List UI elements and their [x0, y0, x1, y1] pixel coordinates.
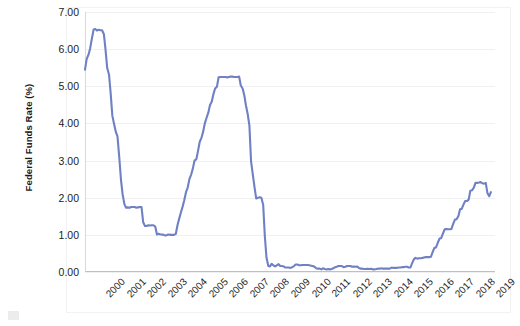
x-tick-label: 2008 — [268, 276, 292, 300]
x-tick-label: 2011 — [329, 276, 352, 299]
y-tick-label: 1.00 — [59, 229, 79, 241]
y-tick-label: 6.00 — [59, 43, 79, 55]
x-tick-label: 2001 — [124, 276, 148, 300]
x-axis-ticks: 2000200120022003200420052006200720082009… — [85, 276, 495, 320]
x-tick-label: 2017 — [453, 276, 477, 300]
x-tick-label: 2010 — [309, 276, 333, 300]
line-series — [85, 12, 495, 272]
chart-figure: Federal Funds Rate (%) 0.001.002.003.004… — [0, 0, 520, 326]
x-tick-label: 2004 — [186, 276, 210, 300]
y-tick-label: 5.00 — [59, 80, 79, 92]
x-tick-label: 2007 — [247, 276, 271, 300]
federal-funds-rate-line — [85, 29, 491, 269]
x-tick-label: 2002 — [145, 276, 169, 300]
x-tick-label: 2014 — [391, 276, 415, 300]
x-tick-label: 2006 — [227, 276, 251, 300]
x-tick-label: 2018 — [473, 276, 497, 300]
x-tick-label: 2016 — [432, 276, 456, 300]
y-tick-label: 3.00 — [59, 155, 79, 167]
y-axis-label: Federal Funds Rate (%) — [23, 48, 34, 228]
x-tick-label: 2009 — [288, 276, 312, 300]
x-tick-label: 2015 — [412, 276, 436, 300]
y-tick-label: 7.00 — [59, 6, 79, 18]
x-tick-label: 2003 — [165, 276, 189, 300]
plot-area: 0.001.002.003.004.005.006.007.00 — [85, 12, 495, 272]
x-tick-label: 2012 — [350, 276, 374, 300]
corner-artifact — [8, 311, 19, 320]
x-tick-label: 2005 — [206, 276, 230, 300]
gridline — [85, 272, 495, 273]
y-tick-label: 2.00 — [59, 192, 79, 204]
y-tick-label: 4.00 — [59, 117, 79, 129]
x-tick-label: 2000 — [104, 276, 128, 300]
y-tick-label: 0.00 — [59, 266, 79, 278]
x-tick-label: 2013 — [371, 276, 395, 300]
